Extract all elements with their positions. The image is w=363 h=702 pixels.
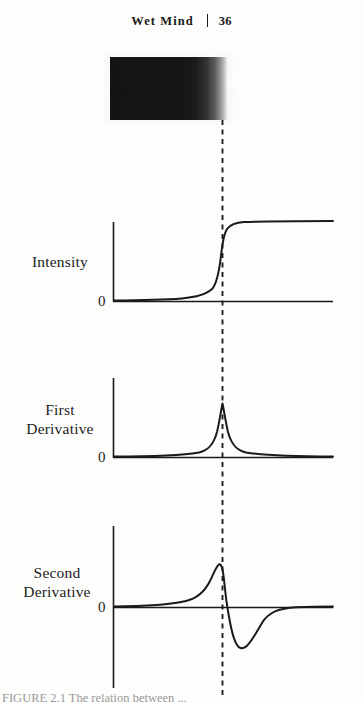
dark-rectangle-scan-grain: [110, 57, 228, 120]
figure-caption-clipped: FIGURE 2.1 The relation between ...: [0, 694, 363, 702]
intensity-curve: [114, 221, 333, 300]
edge-detection-figure: Intensity First Derivative Second Deriva…: [0, 0, 363, 702]
stimulus-rectangle-group: [110, 57, 228, 120]
plot-intensity: [113, 221, 333, 302]
plot-label-second-derivative: Second Derivative: [8, 563, 106, 601]
figure-caption-text: FIGURE 2.1 The relation between ...: [2, 694, 363, 702]
intensity-zero-tick-label: 0: [98, 294, 106, 309]
plot-label-intensity: Intensity: [14, 252, 106, 271]
first-derivative-zero-tick-label: 0: [98, 450, 106, 465]
second-derivative-zero-tick-label: 0: [98, 600, 106, 615]
plot-label-first-derivative: First Derivative: [14, 400, 106, 438]
second-derivative-curve: [114, 564, 333, 648]
first-derivative-curve: [114, 404, 333, 457]
